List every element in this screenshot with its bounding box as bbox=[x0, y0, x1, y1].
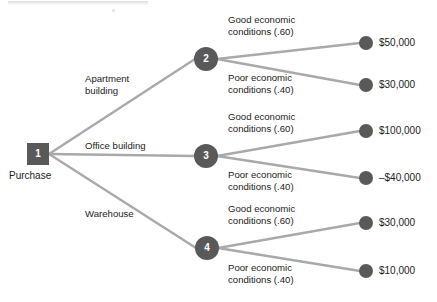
chance-node-3 bbox=[194, 144, 218, 168]
payoff-value-4: –$40,000 bbox=[379, 172, 421, 183]
decision-branch-label-2: Office building bbox=[85, 140, 146, 152]
outcome-leaf-node-4 bbox=[359, 171, 373, 185]
payoff-value-3: $100,000 bbox=[379, 125, 421, 136]
decision-branch-label-1-line-2: building bbox=[85, 85, 205, 97]
outcome-probability-label-5-line-1: Good economic bbox=[228, 203, 348, 215]
chance-node-2 bbox=[194, 47, 218, 71]
tree-edges-and-nodes bbox=[0, 0, 437, 302]
chance-node-4 bbox=[195, 236, 219, 260]
decision-branch-2 bbox=[49, 154, 195, 156]
decision-branch-label-1: Apartmentbuilding bbox=[85, 73, 205, 98]
outcome-probability-label-1-line-1: Good economic bbox=[228, 14, 348, 26]
outcome-probability-label-1-line-2: conditions (.60) bbox=[228, 26, 348, 38]
outcome-leaf-node-5 bbox=[359, 216, 373, 230]
root-node-caption: Purchase bbox=[9, 170, 51, 181]
outcome-probability-label-5-line-2: conditions (.60) bbox=[228, 215, 348, 227]
decision-tree-diagram: 1 Purchase ApartmentbuildingOffice build… bbox=[0, 0, 437, 302]
decision-branch-3 bbox=[49, 154, 196, 248]
outcome-probability-label-4: Poor economicconditions (.40) bbox=[228, 169, 348, 194]
outcome-probability-label-6: Poor economicconditions (.40) bbox=[228, 262, 348, 287]
payoff-value-1: $50,000 bbox=[379, 37, 415, 48]
outcome-probability-label-3-line-1: Good economic bbox=[228, 111, 348, 123]
outcome-probability-label-5: Good economicconditions (.60) bbox=[228, 203, 348, 228]
decision-branch-label-2-line-1: Office building bbox=[85, 140, 146, 152]
outcome-probability-label-4-line-2: conditions (.40) bbox=[228, 181, 348, 193]
outcome-probability-label-2-line-2: conditions (.40) bbox=[228, 84, 348, 96]
payoff-value-6: $10,000 bbox=[379, 265, 415, 276]
decision-branch-label-3-line-1: Warehouse bbox=[85, 208, 134, 220]
outcome-probability-label-6-line-2: conditions (.40) bbox=[228, 274, 348, 286]
outcome-probability-label-1: Good economicconditions (.60) bbox=[228, 14, 348, 39]
outcome-probability-label-3-line-2: conditions (.60) bbox=[228, 123, 348, 135]
payoff-value-2: $30,000 bbox=[379, 79, 415, 90]
outcome-probability-label-2-line-1: Poor economic bbox=[228, 72, 348, 84]
decision-branch-label-3: Warehouse bbox=[85, 208, 134, 220]
decision-branch-label-1-line-1: Apartment bbox=[85, 73, 205, 85]
outcome-probability-label-2: Poor economicconditions (.40) bbox=[228, 72, 348, 97]
payoff-value-5: $30,000 bbox=[379, 217, 415, 228]
outcome-probability-label-4-line-1: Poor economic bbox=[228, 169, 348, 181]
outcome-branch-1 bbox=[217, 43, 360, 59]
outcome-probability-label-3: Good economicconditions (.60) bbox=[228, 111, 348, 136]
outcome-leaf-node-2 bbox=[359, 78, 373, 92]
outcome-leaf-node-3 bbox=[359, 124, 373, 138]
outcome-leaf-node-6 bbox=[359, 264, 373, 278]
outcome-leaf-node-1 bbox=[359, 36, 373, 50]
outcome-probability-label-6-line-1: Poor economic bbox=[228, 262, 348, 274]
root-decision-node bbox=[27, 143, 49, 165]
